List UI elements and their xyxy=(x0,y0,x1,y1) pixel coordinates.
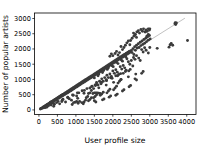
data-point xyxy=(117,82,120,85)
data-point xyxy=(144,30,147,33)
y-tick-label: 1500 xyxy=(14,61,31,69)
data-point xyxy=(131,65,134,68)
data-point xyxy=(171,44,174,47)
data-point xyxy=(140,48,143,51)
data-point xyxy=(105,84,108,87)
data-point xyxy=(93,76,96,79)
data-point xyxy=(123,66,126,69)
data-point xyxy=(105,74,108,77)
data-point xyxy=(186,39,189,42)
data-point xyxy=(137,57,140,60)
data-point xyxy=(145,49,148,52)
data-point xyxy=(100,77,103,80)
data-point xyxy=(115,61,118,64)
x-tick-label: 0 xyxy=(37,118,41,126)
data-point xyxy=(130,59,133,62)
data-point xyxy=(108,88,111,91)
data-point xyxy=(156,47,159,50)
data-point xyxy=(148,46,151,49)
data-point xyxy=(87,92,90,95)
x-axis-ticks: 05001000150020002500300035004000 xyxy=(37,115,195,126)
data-point xyxy=(83,89,86,92)
data-point xyxy=(120,68,123,71)
data-point xyxy=(102,80,105,83)
data-point xyxy=(105,91,108,94)
data-point xyxy=(127,75,130,78)
y-tick-label: 2500 xyxy=(14,30,31,38)
data-point xyxy=(100,82,103,85)
data-point xyxy=(149,37,152,40)
data-point xyxy=(111,69,114,72)
data-point xyxy=(99,92,102,95)
data-point xyxy=(115,50,118,53)
data-point xyxy=(120,58,123,61)
data-point xyxy=(103,98,106,101)
data-point xyxy=(110,75,113,78)
data-point xyxy=(119,65,122,68)
x-tick-label: 4000 xyxy=(178,118,195,126)
data-point xyxy=(120,45,123,48)
data-point xyxy=(138,32,141,35)
data-point xyxy=(134,73,137,76)
data-point xyxy=(60,100,63,103)
data-point xyxy=(64,101,67,104)
data-point xyxy=(46,106,49,109)
data-point xyxy=(128,63,131,66)
data-point xyxy=(118,51,121,54)
data-point xyxy=(122,88,125,91)
data-point xyxy=(83,92,86,95)
data-point xyxy=(139,59,142,62)
data-point xyxy=(108,73,111,76)
data-point xyxy=(148,27,151,30)
data-point xyxy=(50,104,53,107)
data-point xyxy=(116,71,119,74)
y-tick-label: 2000 xyxy=(14,45,31,53)
data-point xyxy=(102,91,105,94)
data-point xyxy=(127,69,130,72)
data-point xyxy=(108,55,111,58)
data-point xyxy=(127,40,130,43)
data-point xyxy=(114,68,117,71)
x-tick-label: 500 xyxy=(51,118,64,126)
data-point xyxy=(95,81,98,84)
data-point xyxy=(70,99,73,102)
scatter-markers xyxy=(39,21,189,110)
data-point xyxy=(142,70,145,73)
data-point xyxy=(97,86,100,89)
data-point xyxy=(122,64,125,67)
data-point xyxy=(106,68,109,71)
data-point xyxy=(117,73,120,76)
chart-canvas: 05001000150020002500300035004000 0500100… xyxy=(0,0,207,147)
data-point xyxy=(110,52,113,55)
data-point xyxy=(111,64,114,67)
data-point xyxy=(82,102,85,105)
x-tick-label: 2000 xyxy=(104,118,121,126)
x-axis-label: User profile size xyxy=(85,136,146,145)
data-point xyxy=(94,101,97,104)
data-point xyxy=(142,51,145,54)
data-point xyxy=(52,105,55,108)
data-point xyxy=(98,80,101,83)
data-point xyxy=(124,55,127,58)
data-point xyxy=(105,79,108,82)
data-point xyxy=(112,88,115,91)
data-point xyxy=(97,83,100,86)
data-point xyxy=(128,43,131,46)
data-point xyxy=(74,101,77,104)
data-point xyxy=(135,79,138,82)
data-point xyxy=(87,99,90,102)
data-point xyxy=(125,69,128,72)
x-tick-label: 1000 xyxy=(68,118,85,126)
y-axis-label: Number of popular artists xyxy=(1,15,10,113)
data-point xyxy=(107,76,110,79)
data-point xyxy=(143,46,146,49)
data-point xyxy=(76,97,79,100)
y-tick-label: 3000 xyxy=(14,15,31,23)
data-point xyxy=(134,58,137,61)
data-point xyxy=(122,72,125,75)
data-point xyxy=(134,34,137,37)
scatter-plot-figure: 05001000150020002500300035004000 0500100… xyxy=(0,0,207,147)
data-point xyxy=(90,96,93,99)
x-tick-label: 3500 xyxy=(160,118,177,126)
data-point xyxy=(169,43,172,46)
